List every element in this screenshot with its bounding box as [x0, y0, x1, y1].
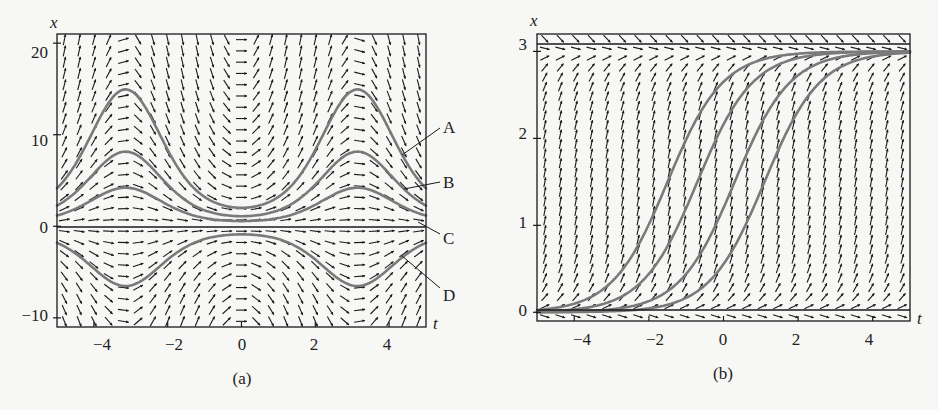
x-tick-neg2-b: −2	[646, 330, 664, 349]
panel-b: x t 3 2 1 0 −4 −2 0 2 4 (b)	[519, 11, 924, 383]
leader-line-c	[418, 222, 440, 234]
x-tick-neg2: −2	[165, 335, 183, 354]
direction-field-b	[540, 35, 907, 318]
x-axis-label-b: t	[917, 309, 923, 328]
y-tick-20: 20	[31, 43, 48, 62]
y-tick-1: 1	[519, 213, 528, 232]
y-tick-10: 10	[31, 131, 48, 150]
curve-label-d: D	[443, 286, 455, 305]
x-tick-0-b: 0	[719, 330, 728, 349]
axis-ticks-b	[533, 51, 873, 321]
y-tick-2: 2	[519, 124, 528, 143]
x-tick-2-b: 2	[792, 330, 801, 349]
x-tick-0: 0	[238, 335, 247, 354]
x-tick-neg4-b: −4	[573, 330, 592, 349]
figure: x t 20 10 0 −10 −4 −2 0 2 4 A B C D (a) …	[0, 0, 938, 410]
x-axis-label-a: t	[433, 314, 439, 333]
x-tick-2: 2	[310, 335, 319, 354]
y-axis-label-a: x	[49, 13, 58, 32]
caption-b: (b)	[713, 364, 733, 383]
curve-label-c: C	[443, 229, 454, 248]
y-tick-3: 3	[519, 35, 528, 54]
x-tick-4: 4	[383, 335, 392, 354]
curve-label-a: A	[443, 118, 456, 137]
x-tick-neg4: −4	[93, 335, 112, 354]
y-tick-neg10: −10	[21, 306, 48, 325]
plot-frame-b	[537, 34, 910, 321]
leader-line-a	[402, 128, 440, 155]
x-tick-4-b: 4	[865, 330, 874, 349]
y-tick-0: 0	[40, 218, 49, 237]
y-axis-label-b: x	[529, 11, 538, 30]
axis-ticks-a	[53, 43, 389, 327]
curve-label-b: B	[443, 173, 454, 192]
y-tick-0-b: 0	[519, 301, 528, 320]
panel-a: x t 20 10 0 −10 −4 −2 0 2 4 A B C D (a)	[21, 13, 456, 388]
caption-a: (a)	[233, 369, 252, 388]
